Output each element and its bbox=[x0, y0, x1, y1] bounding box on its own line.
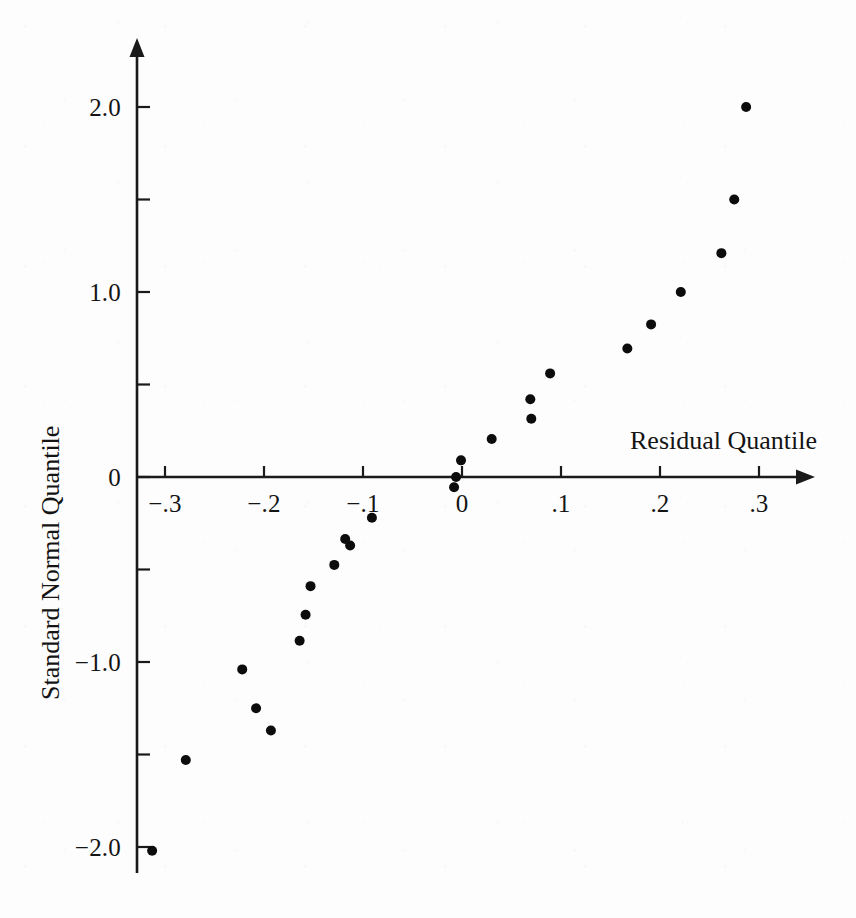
y-tick-label-4: 2.0 bbox=[89, 95, 121, 120]
data-point bbox=[729, 195, 739, 205]
y-axis-arrow-icon bbox=[130, 38, 145, 57]
data-point bbox=[525, 394, 535, 404]
data-point bbox=[451, 472, 461, 482]
data-point bbox=[676, 287, 686, 297]
y-tick-label-1: −1.0 bbox=[75, 650, 121, 675]
data-point bbox=[646, 319, 656, 329]
plot-canvas bbox=[0, 0, 856, 918]
x-tick-label-2: −.1 bbox=[346, 491, 379, 516]
data-point bbox=[526, 414, 536, 424]
data-point bbox=[251, 703, 261, 713]
y-tick-label-0: −2.0 bbox=[75, 835, 121, 860]
data-point bbox=[295, 636, 305, 646]
data-points-group bbox=[147, 102, 751, 856]
x-tick-label-5: .2 bbox=[650, 491, 669, 516]
y-axis-title: Standard Normal Quantile bbox=[38, 426, 64, 700]
data-point bbox=[741, 102, 751, 112]
axes-group bbox=[130, 38, 816, 873]
x-tick-label-3: 0 bbox=[456, 491, 469, 516]
data-point bbox=[147, 846, 157, 856]
x-tick-label-6: .3 bbox=[749, 491, 768, 516]
y-tick-label-2: 0 bbox=[108, 465, 121, 490]
data-point bbox=[487, 434, 497, 444]
data-point bbox=[456, 455, 466, 465]
data-point bbox=[329, 560, 339, 570]
data-point bbox=[301, 610, 311, 620]
data-point bbox=[266, 725, 276, 735]
x-tick-label-0: −.3 bbox=[148, 491, 181, 516]
data-point bbox=[181, 755, 191, 765]
data-point bbox=[340, 534, 350, 544]
data-point bbox=[306, 581, 316, 591]
x-tick-label-1: −.2 bbox=[247, 491, 280, 516]
y-tick-label-3: 1.0 bbox=[89, 280, 121, 305]
x-axis-title: Residual Quantile bbox=[630, 428, 817, 454]
qq-plot-figure: −.3−.2−.10.1.2.3 −2.0−1.001.02.0 Residua… bbox=[0, 0, 856, 918]
x-tick-label-4: .1 bbox=[551, 491, 570, 516]
data-point bbox=[237, 664, 247, 674]
data-point bbox=[545, 368, 555, 378]
data-point bbox=[716, 248, 726, 258]
data-point bbox=[622, 343, 632, 353]
x-axis-arrow-icon bbox=[796, 470, 815, 485]
